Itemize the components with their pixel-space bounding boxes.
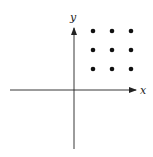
grid-dot	[129, 48, 134, 53]
grid-dot	[91, 29, 96, 34]
grid-dot	[110, 67, 115, 72]
grid-dot	[129, 67, 134, 72]
coordinate-diagram: x y	[0, 0, 153, 157]
grid-dot	[110, 29, 115, 34]
dot-grid	[91, 29, 134, 72]
grid-dot	[91, 67, 96, 72]
y-axis-label: y	[69, 11, 77, 24]
grid-dot	[129, 29, 134, 34]
grid-dot	[91, 48, 96, 53]
x-axis-label: x	[140, 84, 147, 97]
grid-dot	[110, 48, 115, 53]
